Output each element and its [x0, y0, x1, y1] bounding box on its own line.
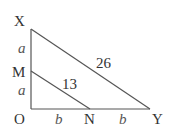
point-label-m: M: [12, 64, 25, 80]
triangle-diagram: X M O N Y a a b b 26 13: [0, 0, 173, 132]
segment-label-xy: 26: [96, 55, 112, 71]
segment-xy: [31, 29, 150, 109]
point-label-x: X: [14, 13, 25, 29]
segment-label-on: b: [55, 111, 63, 127]
segment-label-mn: 13: [62, 76, 77, 92]
point-label-n: N: [84, 111, 95, 127]
point-label-o: O: [14, 111, 25, 127]
segment-mn: [31, 71, 90, 109]
segment-label-xm: a: [18, 40, 26, 56]
segment-label-ny: b: [119, 111, 127, 127]
point-label-y: Y: [152, 111, 163, 127]
segment-label-mo: a: [18, 82, 26, 98]
